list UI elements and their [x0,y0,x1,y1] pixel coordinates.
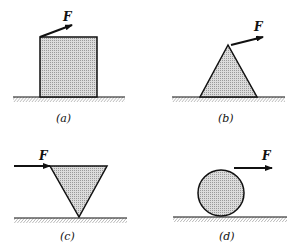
panel-a: F (a) [13,10,125,125]
panel-d: F (d) [173,149,287,243]
circle-block [198,170,244,216]
caption-c: (c) [60,230,75,243]
triangle-block [200,45,257,97]
force-label-c: F [38,149,49,163]
square-block [40,37,97,97]
caption-a: (a) [56,112,71,125]
caption-b: (b) [218,112,234,125]
force-label-a: F [62,10,73,24]
ground-hatch-d [173,217,287,222]
panel-c: F (c) [14,149,127,243]
caption-d: (d) [219,230,235,243]
force-label-d: F [261,149,272,163]
inverted-triangle-block [50,166,107,217]
force-arrow-b [231,37,263,45]
diagram-canvas: F (a) F (b) F (c) F (d) [0,0,300,248]
ground-hatch-c [14,218,127,223]
force-label-b: F [253,20,264,34]
diagram-svg: F (a) F (b) F (c) F (d) [0,0,300,248]
force-arrow-a [40,25,72,37]
panel-b: F (b) [172,20,285,125]
